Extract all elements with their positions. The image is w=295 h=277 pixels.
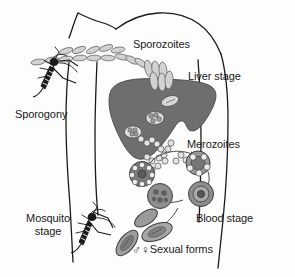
malaria-life-cycle-figure: Sporozoites Liver stage Sporogony Merozo… <box>0 0 295 277</box>
label-sexual-forms-group: ♂♀Sexual forms <box>132 243 213 256</box>
male-symbol-icon: ♂ <box>132 243 141 257</box>
label-sexual-forms: Sexual forms <box>150 243 213 255</box>
blood-cell-trophozoite-right <box>189 182 214 207</box>
blood-cell-segmenter <box>129 162 154 187</box>
label-mosquito-stage-line2: stage <box>35 225 61 237</box>
mosquito-biting-arm-lower <box>71 202 115 253</box>
label-mosquito-stage-line1: Mosquito <box>26 212 70 224</box>
mosquito-biting-arm-upper <box>33 47 78 97</box>
blood-cell-trophozoite-left <box>148 184 173 209</box>
label-sporozoites: Sporozoites <box>133 38 190 50</box>
blood-cell-schizont <box>186 151 210 176</box>
label-liver-stage: Liver stage <box>188 70 241 82</box>
label-mosquito-stage: Mosquito stage <box>22 212 74 237</box>
female-symbol-icon: ♀ <box>141 243 150 257</box>
label-merozoites: Merozoites <box>187 138 240 150</box>
label-sporogony: Sporogony <box>15 108 67 120</box>
label-blood-stage: Blood stage <box>196 212 253 224</box>
